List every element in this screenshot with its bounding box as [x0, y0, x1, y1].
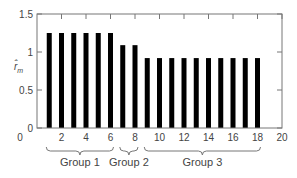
group-braces: Group 1Group 2Group 3	[46, 147, 260, 168]
y-tick-label: 0.5	[19, 85, 33, 96]
x-axis-tick-labels: 02468101214161820	[17, 132, 288, 143]
bar	[255, 58, 260, 128]
bar	[96, 33, 101, 128]
bar	[182, 58, 187, 128]
x-tick-label: 20	[276, 132, 288, 143]
x-tick-label: 12	[178, 132, 190, 143]
group-label: Group 3	[183, 156, 223, 168]
bar-chart: 00.511.5 02468101214161820 r̂m Group 1Gr…	[0, 0, 297, 178]
bar	[108, 33, 113, 128]
group-label: Group 1	[60, 156, 100, 168]
bar	[157, 58, 162, 128]
bar	[71, 33, 76, 128]
bar	[169, 58, 174, 128]
bar	[133, 45, 138, 128]
bar	[243, 58, 248, 128]
y-tick-label: 1.5	[19, 9, 33, 20]
bar	[120, 45, 125, 128]
y-axis-label: r̂m	[14, 59, 23, 74]
group-label: Group 2	[109, 156, 149, 168]
bars	[47, 33, 260, 128]
y-tick-label: 1	[27, 47, 33, 58]
bar	[194, 58, 199, 128]
x-tick-label: 18	[252, 132, 264, 143]
group-brace	[120, 147, 138, 155]
group-brace	[46, 147, 113, 155]
x-tick-label: 4	[83, 132, 89, 143]
x-tick-label: 0	[17, 132, 23, 143]
x-tick-label: 14	[203, 132, 215, 143]
bar	[231, 58, 236, 128]
bar	[84, 33, 89, 128]
bar	[206, 58, 211, 128]
x-tick-label: 16	[227, 132, 239, 143]
y-axis-label-subscript: m	[17, 67, 23, 74]
x-tick-label: 6	[108, 132, 114, 143]
bar	[145, 58, 150, 128]
bar	[59, 33, 64, 128]
y-tick-label: 0	[27, 123, 33, 134]
group-brace	[144, 147, 260, 155]
x-tick-label: 2	[59, 132, 65, 143]
bar	[47, 33, 52, 128]
bar	[218, 58, 223, 128]
x-tick-label: 8	[132, 132, 138, 143]
x-tick-label: 10	[154, 132, 166, 143]
